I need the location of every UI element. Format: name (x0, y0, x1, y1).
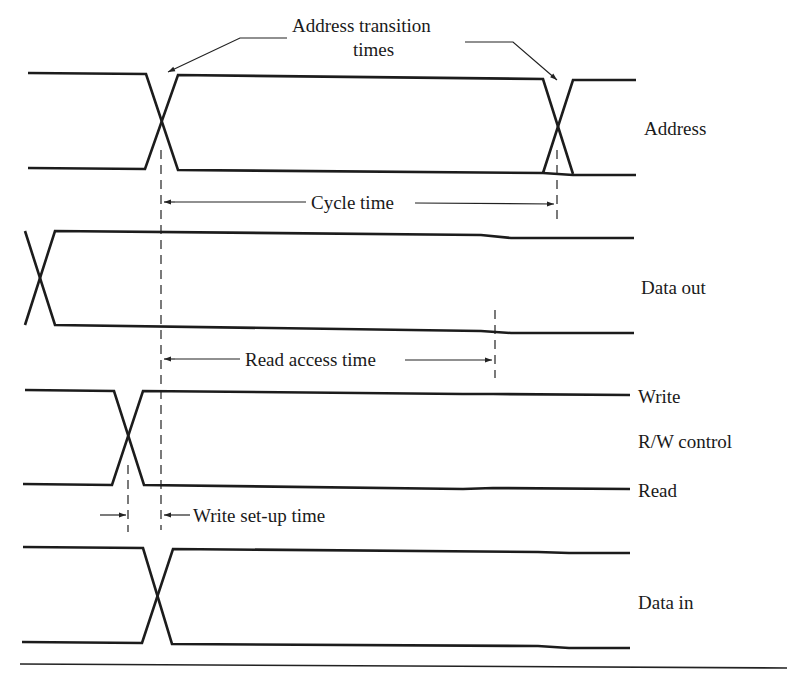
rw-high-label-write: Write (638, 386, 681, 407)
read-access-time-label: Read access time (245, 349, 376, 370)
signal-label-rw-control: R/W control (638, 431, 732, 452)
cycle-time-label: Cycle time (311, 192, 394, 213)
bottom-rule (20, 664, 787, 668)
signal-label-address: Address (644, 118, 706, 139)
address-transition-label-line2: times (353, 39, 394, 60)
address-transition-annotation: Address transition times (168, 15, 557, 80)
cycle-time-annotation: Cycle time (164, 192, 554, 213)
signal-rw-control: Write R/W control Read (23, 386, 732, 501)
rw-low-label-read: Read (638, 480, 678, 501)
signal-address: Address (28, 73, 706, 175)
write-setup-time-annotation: Write set-up time (100, 505, 325, 526)
signal-label-data-out: Data out (641, 277, 707, 298)
address-transition-label-line1: Address transition (292, 15, 431, 36)
read-access-time-annotation: Read access time (164, 349, 492, 370)
write-setup-time-label: Write set-up time (193, 505, 325, 526)
timing-diagram: Address transition times Address Cycle t… (0, 0, 787, 677)
signal-label-data-in: Data in (638, 592, 694, 613)
address-transition-leader-left (168, 38, 287, 72)
address-transition-leader-right (465, 42, 557, 80)
signal-data-in: Data in (22, 547, 694, 648)
signal-data-out: Data out (25, 231, 707, 333)
